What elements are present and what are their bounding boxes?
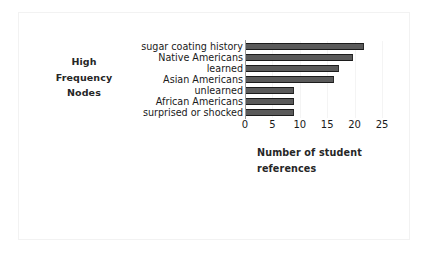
bar [246, 65, 339, 72]
category-label: learned [110, 64, 243, 75]
category-label: sugar coating history [110, 42, 243, 53]
value-tick-label: 25 [376, 119, 389, 131]
gridline [355, 41, 356, 118]
value-tick-label: 5 [269, 119, 275, 131]
category-label: African Americans [110, 97, 243, 108]
bar [246, 76, 334, 83]
bar [246, 109, 294, 116]
gridline [382, 41, 383, 118]
plot-area [245, 41, 382, 118]
value-tick-label: 0 [242, 119, 248, 131]
bar [246, 87, 294, 94]
bar [246, 54, 353, 61]
x-axis-title-line-1: references [257, 161, 407, 177]
value-tick-label: 20 [348, 119, 361, 131]
category-label: surprised or shocked [110, 108, 243, 119]
bar [246, 98, 294, 105]
category-label: unlearned [110, 86, 243, 97]
value-tick-label: 10 [293, 119, 306, 131]
category-axis-labels: sugar coating historyNative Americanslea… [110, 42, 243, 118]
bar [246, 43, 364, 50]
value-tick-label: 15 [321, 119, 334, 131]
category-label: Asian Americans [110, 75, 243, 86]
x-axis-title-line-0: Number of student [257, 145, 407, 161]
x-axis-title: Number of studentreferences [257, 145, 407, 177]
value-axis-ticks: 0510152025 [245, 119, 382, 132]
category-label: Native Americans [110, 53, 243, 64]
bar-chart-figure: HighFrequencyNodes sugar coating history… [0, 0, 436, 261]
